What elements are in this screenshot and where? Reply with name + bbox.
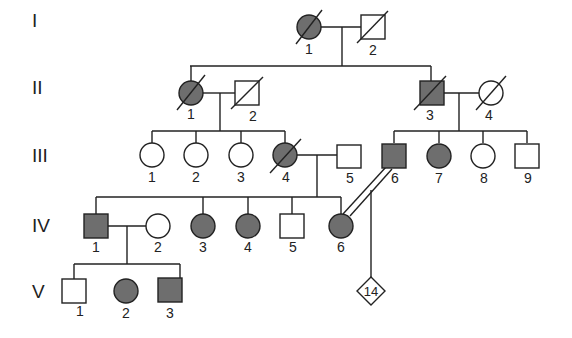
unaffected-male-symbol [62, 279, 86, 303]
individual-number: 2 [192, 169, 200, 185]
individual-number: 3 [426, 107, 434, 123]
generation-label-i: I [32, 10, 37, 31]
unaffected-male-symbol [280, 214, 304, 238]
individual-number: 6 [337, 239, 345, 255]
individual-number: 1 [187, 106, 195, 122]
affected-female-symbol [114, 279, 138, 303]
individual-v-2[interactable]: 2 [114, 279, 138, 321]
individual-iii-1[interactable]: 1 [140, 143, 164, 185]
affected-male-symbol [84, 214, 108, 238]
affected-male-symbol [382, 144, 406, 168]
affected-female-symbol [191, 214, 215, 238]
unaffected-male-symbol [337, 145, 361, 168]
individual-number: 4 [485, 107, 493, 123]
unaffected-male-symbol [515, 144, 539, 168]
unaffected-female-symbol [140, 143, 164, 167]
unaffected-female-symbol [229, 143, 253, 167]
individual-number: 1 [305, 41, 313, 57]
individual-number: 2 [369, 42, 377, 58]
offspring-group-14[interactable]: 14 [357, 277, 385, 305]
individual-number: 8 [480, 170, 488, 186]
individual-number: 9 [524, 170, 532, 186]
individual-number: 5 [289, 239, 297, 255]
unaffected-female-symbol [146, 214, 170, 238]
individual-number: 1 [76, 303, 84, 319]
individual-iv-3[interactable]: 3 [191, 214, 215, 255]
individual-number: 4 [282, 169, 290, 185]
individual-number: 6 [391, 170, 399, 186]
affected-male-symbol [158, 278, 182, 302]
generation-label-v: V [32, 281, 45, 302]
individual-number: 1 [92, 239, 100, 255]
generation-labels: I II III IV V [32, 10, 50, 302]
individual-number: 3 [237, 169, 245, 185]
unaffected-female-symbol [471, 144, 495, 168]
individual-iii-4[interactable]: 4 [270, 139, 301, 185]
individual-ii-3[interactable]: 3 [414, 76, 446, 123]
individual-iv-1[interactable]: 1 [84, 214, 108, 255]
individual-iii-5[interactable]: 5 [337, 145, 361, 186]
affected-female-symbol [236, 214, 260, 238]
individual-i-1[interactable]: 1 [296, 10, 322, 57]
pedigree-chart: I II III IV V [0, 0, 572, 338]
individual-iii-6[interactable]: 6 [382, 144, 406, 186]
individual-ii-2[interactable]: 2 [231, 77, 263, 124]
individual-number: 7 [435, 170, 443, 186]
individual-i-2[interactable]: 2 [357, 11, 388, 58]
individual-ii-4[interactable]: 4 [476, 76, 506, 123]
individual-number: 2 [249, 108, 257, 124]
unaffected-female-symbol [184, 143, 208, 167]
generation-label-ii: II [32, 77, 43, 98]
affected-female-symbol [329, 214, 353, 238]
individual-number: 2 [122, 305, 130, 321]
individual-number: 5 [346, 170, 354, 186]
individual-iv-5[interactable]: 5 [280, 214, 304, 255]
offspring-count: 14 [364, 284, 378, 299]
individual-number: 2 [154, 239, 162, 255]
individual-number: 3 [199, 239, 207, 255]
individual-iii-2[interactable]: 2 [184, 143, 208, 185]
individual-iii-7[interactable]: 7 [427, 144, 451, 186]
individual-iv-6[interactable]: 6 [329, 214, 353, 255]
individual-iv-2[interactable]: 2 [146, 214, 170, 255]
individual-iii-3[interactable]: 3 [229, 143, 253, 185]
individual-v-1[interactable]: 1 [62, 279, 86, 319]
individual-number: 4 [244, 239, 252, 255]
individual-ii-1[interactable]: 1 [177, 75, 205, 122]
individuals: 1 2 1 2 3 4 1 [62, 10, 539, 321]
affected-male-symbol [420, 81, 444, 105]
individual-v-3[interactable]: 3 [158, 278, 182, 321]
individual-iii-8[interactable]: 8 [471, 144, 495, 186]
individual-iv-4[interactable]: 4 [236, 214, 260, 255]
affected-female-symbol [427, 144, 451, 168]
generation-label-iii: III [32, 145, 48, 166]
individual-iii-9[interactable]: 9 [515, 144, 539, 186]
individual-number: 3 [166, 305, 174, 321]
individual-number: 1 [148, 169, 156, 185]
generation-label-iv: IV [32, 215, 50, 236]
